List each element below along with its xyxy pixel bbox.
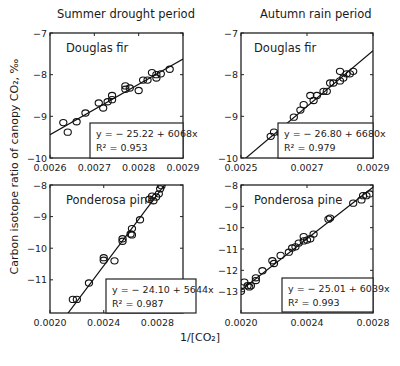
panel-bottom-left: 0.00200.00240.0028−11−10−9−8Ponderosa pi… xyxy=(27,160,214,337)
x-tick-label: 0.0024 xyxy=(290,317,323,328)
r2-label: R² = 0.993 xyxy=(288,297,340,308)
y-tick-label: −9 xyxy=(224,111,238,122)
x-tick-label: 0.0029 xyxy=(166,162,199,173)
y-tick-label: −13 xyxy=(218,286,238,297)
equation-label: y = − 26.80 + 6680x xyxy=(284,128,386,139)
y-tick-label: −9 xyxy=(224,201,238,212)
y-tick-label: −10 xyxy=(27,153,47,164)
x-tick-label: 0.0025 xyxy=(224,162,257,173)
y-axis-label: Carbon isotope ratio of canopy CO₂, ‰ xyxy=(8,75,21,275)
species-label: Ponderosa pine xyxy=(66,193,154,207)
y-tick-label: −8 xyxy=(33,69,47,80)
r2-label: R² = 0.987 xyxy=(112,298,164,309)
x-tick-label: 0.0027 xyxy=(290,162,323,173)
data-point xyxy=(111,258,118,264)
y-tick-label: −10 xyxy=(27,243,47,254)
x-axis-label: 1/[CO₂] xyxy=(180,331,220,344)
x-tick-label: 0.0026 xyxy=(33,162,66,173)
y-tick-label: −8 xyxy=(224,180,238,191)
x-tick-label: 0.0024 xyxy=(87,317,120,328)
y-tick-label: −12 xyxy=(218,265,238,276)
species-label: Douglas fir xyxy=(66,41,129,55)
y-tick-label: −11 xyxy=(218,244,238,255)
data-point xyxy=(300,102,307,108)
x-tick-label: 0.0028 xyxy=(122,162,155,173)
y-tick-label: −10 xyxy=(218,153,238,164)
data-point xyxy=(135,87,142,93)
y-tick-label: −10 xyxy=(218,222,238,233)
equation-label: y = − 25.22 + 6068x xyxy=(96,128,198,139)
equation-label: y = − 25.01 + 6039x xyxy=(288,283,390,294)
r2-label: R² = 0.953 xyxy=(96,142,148,153)
y-tick-label: −11 xyxy=(27,274,47,285)
x-tick-label: 0.0028 xyxy=(141,317,174,328)
x-tick-label: 0.0027 xyxy=(78,162,111,173)
x-tick-label: 0.0020 xyxy=(33,317,66,328)
panel-top-right: 0.00250.00270.0029−10−9−8−7Douglas firy … xyxy=(218,28,390,174)
x-tick-label: 0.0029 xyxy=(356,162,389,173)
chart-figure: 0.00260.00270.00280.0029−10−9−8−7Douglas… xyxy=(0,0,400,366)
data-point xyxy=(64,129,71,135)
species-label: Ponderosa pine xyxy=(254,193,342,207)
species-label: Douglas fir xyxy=(254,41,317,55)
data-point xyxy=(277,252,284,258)
r2-label: R² = 0.979 xyxy=(284,142,336,153)
data-point xyxy=(60,119,67,125)
y-tick-label: −8 xyxy=(224,69,238,80)
x-tick-label: 0.0028 xyxy=(356,317,389,328)
panel-bottom-right: 0.00200.00240.0028−13−12−11−10−9−8Ponder… xyxy=(218,180,390,329)
data-point xyxy=(100,105,107,111)
equation-label: y = − 24.10 + 5644x xyxy=(112,284,214,295)
x-tick-label: 0.0020 xyxy=(224,317,257,328)
y-tick-label: −9 xyxy=(33,111,47,122)
y-tick-label: −8 xyxy=(33,180,47,191)
y-tick-label: −7 xyxy=(33,28,47,39)
y-tick-label: −7 xyxy=(224,28,238,39)
y-tick-label: −9 xyxy=(33,211,47,222)
panel-top-left: 0.00260.00270.00280.0029−10−9−8−7Douglas… xyxy=(27,28,200,174)
